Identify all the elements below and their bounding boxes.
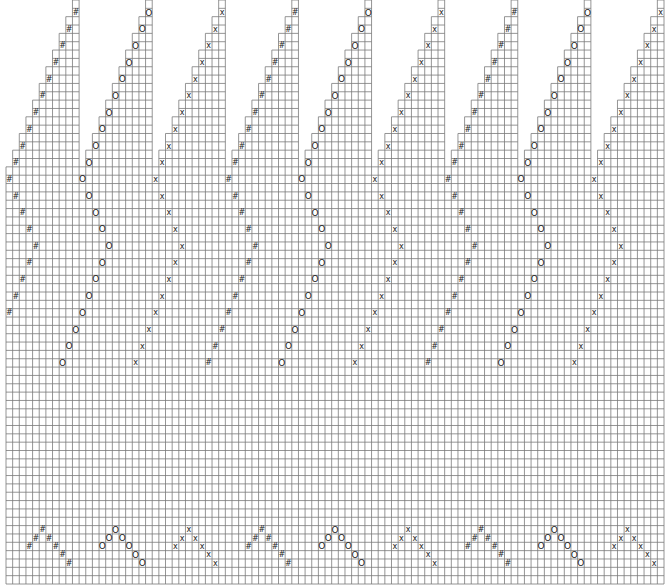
- hash-symbol: #: [232, 192, 239, 201]
- cross-symbol: x: [186, 525, 191, 534]
- circle-symbol: O: [66, 341, 73, 351]
- hash-symbol: #: [245, 225, 252, 234]
- hash-symbol: #: [52, 58, 59, 67]
- cross-symbol: x: [638, 542, 643, 551]
- cross-symbol: x: [386, 142, 391, 151]
- hash-symbol: #: [19, 275, 26, 284]
- hash-symbol: #: [225, 308, 232, 317]
- circle-symbol: O: [537, 258, 544, 268]
- circle-symbol: O: [544, 533, 551, 543]
- circle-symbol: O: [72, 325, 79, 335]
- cross-symbol: x: [379, 192, 384, 201]
- circle-symbol: O: [305, 191, 312, 201]
- circle-symbol: O: [298, 174, 305, 184]
- cross-symbol: x: [652, 25, 657, 34]
- hash-symbol: #: [451, 292, 458, 301]
- cross-symbol: x: [612, 125, 617, 134]
- hash-symbol: #: [239, 142, 246, 151]
- circle-symbol: O: [292, 325, 299, 335]
- circle-symbol: O: [345, 58, 352, 68]
- circle-symbol: O: [351, 41, 358, 51]
- hash-symbol: #: [219, 325, 226, 334]
- hash-symbol: #: [285, 559, 292, 568]
- hash-symbol: #: [26, 542, 33, 551]
- hash-symbol: #: [33, 242, 40, 251]
- hash-symbol: #: [438, 325, 445, 334]
- cross-symbol: x: [140, 342, 145, 351]
- circle-symbol: O: [99, 124, 106, 134]
- hash-symbol: #: [245, 258, 252, 267]
- cross-symbol: x: [612, 542, 617, 551]
- cross-symbol: x: [618, 534, 623, 543]
- circle-symbol: O: [511, 325, 518, 335]
- hash-symbol: #: [259, 91, 266, 100]
- cross-symbol: x: [213, 25, 218, 34]
- cross-symbol: x: [605, 275, 610, 284]
- cross-symbol: x: [153, 175, 158, 184]
- circle-symbol: O: [125, 58, 132, 68]
- cross-symbol: x: [579, 342, 584, 351]
- circle-symbol: O: [318, 541, 325, 551]
- cross-symbol: x: [592, 175, 597, 184]
- cross-symbol: x: [180, 242, 185, 251]
- circle-symbol: O: [358, 558, 365, 568]
- cross-symbol: x: [392, 225, 397, 234]
- circle-symbol: O: [145, 8, 152, 18]
- hash-symbol: #: [26, 258, 33, 267]
- hash-symbol: #: [504, 559, 511, 568]
- circle-symbol: O: [331, 91, 338, 101]
- cross-symbol: x: [612, 225, 617, 234]
- cross-symbol: x: [379, 158, 384, 167]
- hash-symbol: #: [458, 208, 465, 217]
- cross-symbol: x: [632, 75, 637, 84]
- cross-symbol: x: [605, 208, 610, 217]
- cross-symbol: x: [612, 258, 617, 267]
- hash-symbol: #: [465, 225, 472, 234]
- hash-symbol: #: [245, 125, 252, 134]
- cross-symbol: x: [392, 258, 397, 267]
- circle-symbol: O: [278, 358, 285, 368]
- cross-symbol: x: [366, 325, 371, 334]
- circle-symbol: O: [524, 191, 531, 201]
- circle-symbol: O: [132, 41, 139, 51]
- cross-symbol: x: [625, 525, 630, 534]
- hash-symbol: #: [33, 534, 40, 543]
- cross-symbol: x: [618, 108, 623, 117]
- hash-symbol: #: [205, 358, 212, 367]
- cross-symbol: x: [432, 559, 437, 568]
- cross-symbol: x: [359, 342, 364, 351]
- cross-symbol: x: [419, 58, 424, 67]
- hash-symbol: #: [33, 108, 40, 117]
- hash-symbol: #: [445, 308, 452, 317]
- hash-symbol: #: [239, 275, 246, 284]
- cross-symbol: x: [419, 542, 424, 551]
- circle-symbol: O: [584, 8, 591, 18]
- hash-symbol: #: [26, 225, 33, 234]
- circle-symbol: O: [86, 191, 93, 201]
- grid-lines: [6, 0, 664, 584]
- cross-symbol: x: [412, 534, 417, 543]
- hash-symbol: #: [19, 208, 26, 217]
- hash-symbol: #: [19, 142, 26, 151]
- cross-symbol: x: [153, 308, 158, 317]
- circle-symbol: O: [325, 533, 332, 543]
- cross-symbol: x: [166, 142, 171, 151]
- cross-symbol: x: [652, 559, 657, 568]
- hash-symbol: #: [245, 542, 252, 551]
- cross-symbol: x: [572, 358, 577, 367]
- hash-symbol: #: [491, 58, 498, 67]
- circle-symbol: O: [325, 241, 332, 251]
- cross-symbol: x: [173, 125, 178, 134]
- hash-symbol: #: [485, 75, 492, 84]
- cross-symbol: x: [426, 550, 431, 559]
- cross-symbol: x: [645, 550, 650, 559]
- cross-symbol: x: [173, 542, 178, 551]
- hash-symbol: #: [252, 108, 259, 117]
- circle-symbol: O: [571, 41, 578, 51]
- circle-symbol: O: [564, 58, 571, 68]
- cross-symbol: x: [399, 108, 404, 117]
- cross-symbol: x: [399, 534, 404, 543]
- cross-symbol: x: [598, 158, 603, 167]
- cross-symbol: x: [625, 91, 630, 100]
- hash-symbol: #: [252, 534, 259, 543]
